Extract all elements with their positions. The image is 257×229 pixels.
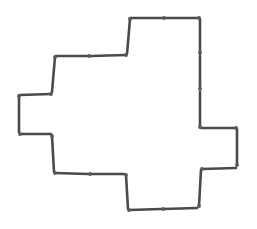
matchstick-head xyxy=(53,55,57,59)
matchstick xyxy=(52,136,54,172)
matchstick xyxy=(126,175,128,209)
matchstick xyxy=(127,19,130,54)
matchstick-head xyxy=(53,171,57,175)
matchstick xyxy=(163,208,197,209)
matchstick-head xyxy=(162,16,166,20)
matchstick-head xyxy=(124,53,128,57)
matchstick-head xyxy=(127,208,131,212)
matchstick xyxy=(129,209,161,210)
matchstick xyxy=(199,170,201,206)
matchstick xyxy=(55,173,88,174)
matchstick-head xyxy=(198,51,202,55)
matchstick-head xyxy=(235,163,239,167)
matchstick-head xyxy=(197,204,201,208)
matchstick-head xyxy=(87,54,91,58)
matchstick-head xyxy=(124,173,128,177)
matchstick-head xyxy=(50,134,54,138)
matchstick-head xyxy=(200,167,204,171)
matchstick xyxy=(20,94,51,95)
matchstick-head xyxy=(18,132,22,136)
matchstick-head xyxy=(197,16,201,20)
matchstick-head xyxy=(17,94,21,98)
matchstick-head xyxy=(49,92,53,96)
matchstick-group xyxy=(19,18,237,210)
matchstick-head xyxy=(198,87,202,91)
matchstick xyxy=(202,168,236,169)
matchstick-head xyxy=(161,207,165,211)
matchstick-head xyxy=(198,125,202,129)
matchstick-head xyxy=(88,172,92,176)
matchstick xyxy=(91,55,126,56)
matchstick-head xyxy=(128,17,132,21)
matchstick-diagram xyxy=(0,0,257,229)
matchstick-head xyxy=(234,126,238,130)
matchstick xyxy=(52,57,55,92)
